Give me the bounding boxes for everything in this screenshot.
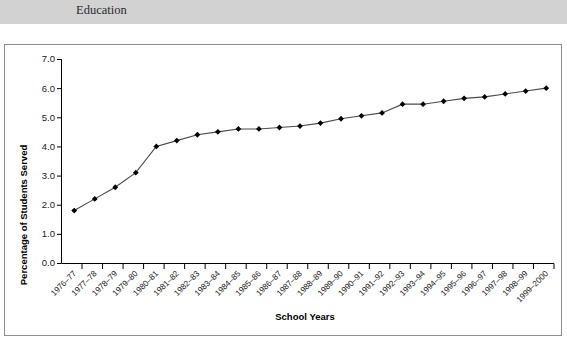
y-tick-label: 7.0 [42, 53, 55, 64]
caption-line-bottom: Education [76, 3, 127, 18]
data-point-marker [461, 95, 467, 101]
y-tick-label: 4.0 [42, 141, 55, 152]
y-tick-label: 3.0 [42, 170, 55, 181]
data-point-marker [543, 85, 549, 91]
x-axis-tick-marks [82, 264, 554, 270]
data-point-marker [379, 110, 385, 116]
data-point-marker [256, 126, 262, 132]
data-point-marker [502, 91, 508, 97]
y-axis-tick-marks [57, 60, 62, 264]
data-point-marker [420, 101, 426, 107]
data-point-marker [92, 196, 98, 202]
data-point-marker [318, 120, 324, 126]
series-line [74, 88, 546, 210]
y-tick-label: 0.0 [42, 257, 55, 268]
data-point-marker [441, 98, 447, 104]
y-tick-label: 6.0 [42, 83, 55, 94]
data-point-marker [174, 138, 180, 144]
y-axis-title: Percentage of Students Served [18, 145, 29, 286]
data-point-marker [338, 116, 344, 122]
y-tick-label: 5.0 [42, 112, 55, 123]
y-tick-label: 1.0 [42, 228, 55, 239]
data-point-marker [194, 132, 200, 138]
data-point-marker [359, 113, 365, 119]
x-axis-title: School Years [275, 311, 335, 322]
y-tick-label: 2.0 [42, 199, 55, 210]
figure-caption-band: Education [0, 0, 567, 24]
data-point-marker [215, 129, 221, 135]
data-point-marker [523, 88, 529, 94]
data-point-marker [235, 126, 241, 132]
line-chart: Percentage of Students Served 0.01.02.03… [5, 45, 563, 335]
series-markers [71, 85, 549, 213]
data-point-marker [277, 125, 283, 131]
y-axis-tick-labels: 0.01.02.03.04.05.06.07.0 [42, 53, 55, 268]
data-point-marker [71, 208, 77, 214]
data-point-marker [297, 123, 303, 129]
data-point-marker [400, 101, 406, 107]
x-axis-tick-labels: 1976–771977–781978–791979–801980–811981–… [49, 269, 550, 305]
data-point-marker [482, 94, 488, 100]
figure-frame: Percentage of Students Served 0.01.02.03… [4, 44, 562, 336]
